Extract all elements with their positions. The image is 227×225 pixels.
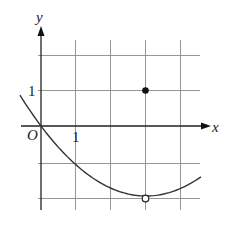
y-tick-label-1: 1 [28, 83, 36, 99]
filled-point [142, 87, 149, 94]
y-axis-label: y [34, 9, 43, 25]
y-axis-arrow-icon [38, 26, 45, 36]
x-tick-label-1: 1 [72, 129, 80, 145]
x-axis-arrow-icon [201, 123, 211, 130]
open-point [142, 195, 149, 202]
grid [38, 40, 200, 210]
function-graph: y x O 1 1 [0, 0, 227, 225]
x-axis-label: x [211, 119, 219, 135]
origin-label: O [27, 127, 38, 143]
